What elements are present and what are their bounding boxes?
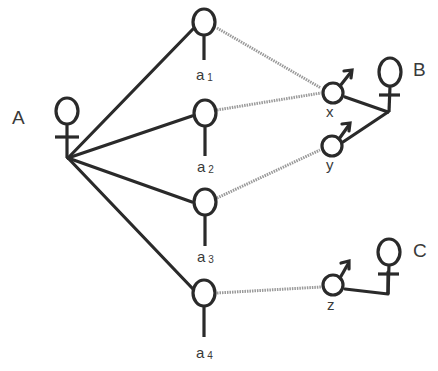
label-C: C: [413, 240, 427, 261]
female-symbol-C: [378, 239, 400, 294]
female-symbol-B: [379, 58, 401, 112]
node-a3: [194, 189, 216, 246]
edge-x-B: [345, 97, 388, 112]
edge-a2-x: [217, 93, 321, 110]
kinship-diagram: A a1 a2 a3 a4 x y z: [0, 0, 438, 371]
label-z: z: [327, 296, 335, 313]
edge-A-a3: [68, 158, 192, 202]
label-x: x: [326, 103, 334, 120]
dotted-edges: [217, 28, 321, 293]
label-B: B: [413, 59, 426, 80]
label-a2: a2: [197, 158, 214, 175]
edge-A-a1: [68, 29, 193, 158]
label-a4: a4: [196, 344, 213, 361]
node-a4: [193, 280, 215, 337]
label-y: y: [326, 156, 334, 173]
node-a2: [194, 100, 216, 156]
label-a3: a3: [197, 248, 214, 265]
edge-A-a4: [68, 158, 193, 289]
label-a1: a1: [196, 66, 213, 83]
label-A: A: [12, 107, 25, 128]
solid-edges: [68, 29, 193, 289]
edge-a3-y: [217, 150, 320, 198]
edge-a1-x: [217, 28, 321, 88]
edge-a4-z: [217, 287, 321, 293]
node-a1: [193, 9, 215, 60]
